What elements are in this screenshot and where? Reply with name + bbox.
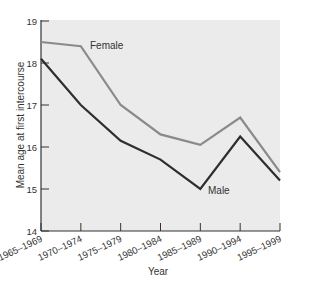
x-tick-label: 1975–1979 — [76, 233, 124, 263]
line-chart: 141516171819 1965–19691970–19741975–1979… — [0, 0, 314, 288]
x-tick-label: 1995–1999 — [235, 233, 283, 263]
y-tick-label: 16 — [26, 142, 37, 153]
y-tick-label: 19 — [26, 16, 37, 27]
plot-background — [41, 20, 280, 231]
male-series-label: Male — [208, 185, 230, 196]
y-tick-label: 17 — [26, 100, 37, 111]
x-axis-title: Year — [148, 266, 169, 277]
x-tick-label: 1985–1989 — [155, 233, 203, 263]
y-axis-title: Mean age at first intercourse — [15, 61, 26, 188]
y-tick-label: 18 — [26, 58, 37, 69]
female-series-label: Female — [90, 40, 124, 51]
x-tick-label: 1980–1984 — [116, 233, 164, 263]
x-tick-label: 1965–1969 — [0, 233, 44, 263]
y-tick-label: 15 — [26, 184, 37, 195]
x-tick-label: 1990–1994 — [195, 233, 243, 263]
x-tick-label: 1970–1974 — [36, 233, 84, 263]
